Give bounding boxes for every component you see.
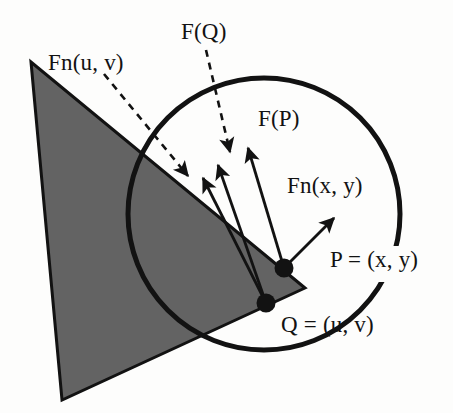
point-p-dot <box>275 259 294 278</box>
figure-container: Fn(u, v) F(Q) F(P) Fn(x, y) P = (x, y) Q… <box>0 0 453 413</box>
label-point-p: P = (x, y) <box>330 248 418 271</box>
vector-fn-xy-at-p <box>284 218 334 268</box>
label-f-p: F(P) <box>258 107 300 130</box>
point-q-dot <box>257 294 276 313</box>
label-fn-uv: Fn(u, v) <box>48 51 124 74</box>
label-point-q: Q = (u, v) <box>281 313 374 336</box>
label-f-q: F(Q) <box>181 20 227 43</box>
leader-line-f-q <box>206 50 230 152</box>
label-fn-xy: Fn(x, y) <box>287 174 363 197</box>
